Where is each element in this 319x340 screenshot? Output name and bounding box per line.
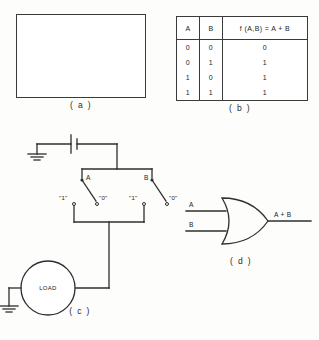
switch-circuit-panel: A "1" "0" B "1" "0" bbox=[4, 130, 176, 330]
caption-c: ( c ) bbox=[40, 306, 120, 316]
table-row: 0 0 0 bbox=[177, 40, 308, 56]
cell-b: 0 bbox=[200, 40, 223, 56]
switch-b-pos-zero-label: "0" bbox=[169, 195, 178, 201]
cell-b: 1 bbox=[200, 85, 223, 101]
switch-circuit-svg: A "1" "0" B "1" "0" bbox=[4, 130, 176, 330]
venn-frame bbox=[16, 14, 146, 98]
load-label: LOAD bbox=[39, 285, 57, 291]
caption-b: ( b ) bbox=[176, 103, 304, 113]
header-f: f (A,B) = A + B bbox=[223, 17, 308, 40]
switch-a[interactable]: A bbox=[80, 174, 96, 201]
cell-f: 1 bbox=[223, 70, 308, 85]
cell-a: 0 bbox=[177, 55, 200, 70]
cell-b: 0 bbox=[200, 70, 223, 85]
switch-a-pos-one-label: "1" bbox=[59, 195, 68, 201]
cell-a: 1 bbox=[177, 70, 200, 85]
or-gate-output-label: A + B bbox=[274, 211, 292, 218]
truth-table: A B f (A,B) = A + B 0 0 0 0 1 1 1 bbox=[176, 16, 308, 101]
or-gate-svg: A B A + B bbox=[180, 192, 316, 254]
switch-a-terminals: "1" "0" bbox=[59, 195, 108, 206]
figure-root: A B ( a ) A B f (A,B) = A + B 0 0 0 bbox=[0, 0, 319, 340]
truth-table-panel: A B f (A,B) = A + B 0 0 0 0 1 1 1 bbox=[176, 16, 304, 100]
cell-a: 1 bbox=[177, 85, 200, 101]
cell-a: 0 bbox=[177, 40, 200, 56]
caption-d: ( d ) bbox=[198, 256, 284, 266]
or-gate-input-b-label: B bbox=[189, 221, 194, 228]
switch-b-terminals: "1" "0" bbox=[129, 195, 178, 206]
or-gate-input-a-label: A bbox=[189, 201, 194, 208]
or-gate-body bbox=[222, 198, 268, 244]
header-b: B bbox=[200, 17, 223, 40]
table-row: 1 1 1 bbox=[177, 85, 308, 101]
cell-f: 1 bbox=[223, 55, 308, 70]
header-a: A bbox=[177, 17, 200, 40]
switch-b-pos-one-label: "1" bbox=[129, 195, 138, 201]
switch-a-label: A bbox=[86, 174, 91, 181]
caption-a: ( a ) bbox=[16, 100, 146, 110]
switch-a-pos-zero-label: "0" bbox=[99, 195, 108, 201]
table-header-row: A B f (A,B) = A + B bbox=[177, 17, 308, 40]
battery-symbol bbox=[71, 135, 77, 153]
or-gate-panel: A B A + B bbox=[180, 192, 316, 254]
venn-diagram-panel: A B bbox=[16, 14, 146, 98]
cell-f: 1 bbox=[223, 85, 308, 101]
ground-symbol-load bbox=[0, 306, 18, 312]
switch-b[interactable]: B bbox=[144, 174, 166, 201]
cell-b: 1 bbox=[200, 55, 223, 70]
ground-symbol-battery bbox=[28, 144, 46, 160]
cell-f: 0 bbox=[223, 40, 308, 56]
table-row: 1 0 1 bbox=[177, 70, 308, 85]
table-row: 0 1 1 bbox=[177, 55, 308, 70]
switch-b-label: B bbox=[144, 174, 149, 181]
